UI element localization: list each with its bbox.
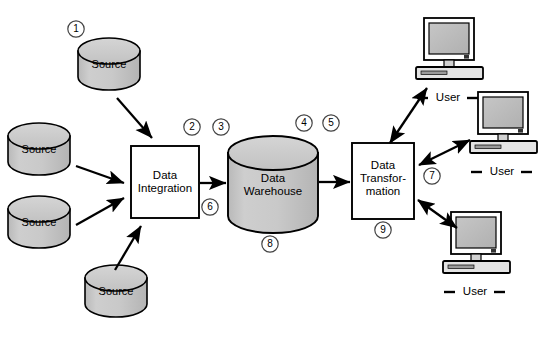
architecture-diagram	[0, 0, 551, 354]
diagram-canvas: Source Source Source Source Data Integra…	[0, 0, 551, 354]
flow-source2-to-integration	[76, 166, 124, 183]
flow-transformation-user1	[390, 88, 427, 143]
data-integration-box	[131, 146, 199, 218]
marker-circle-1	[68, 21, 84, 37]
user-computer-2	[470, 92, 537, 153]
user-computer-3	[443, 212, 510, 273]
flow-transformation-user2	[419, 140, 470, 165]
marker-circle-7	[424, 168, 440, 184]
marker-circle-3	[213, 119, 229, 135]
flow-source1-to-integration	[117, 98, 152, 138]
data-warehouse-cylinder	[228, 136, 318, 233]
marker-circle-6	[202, 199, 218, 215]
data-transformation-box	[352, 143, 414, 219]
user-computer-1	[416, 18, 483, 79]
marker-circle-2	[184, 119, 200, 135]
flow-source3-to-integration	[76, 198, 124, 225]
marker-circle-8	[262, 236, 278, 252]
source-cylinder-4	[85, 265, 147, 317]
flow-source4-to-integration	[115, 226, 141, 270]
source-cylinder-3	[8, 196, 70, 248]
source-cylinder-2	[8, 123, 70, 175]
marker-circle-9	[375, 222, 391, 238]
source-cylinder-1	[78, 38, 140, 90]
marker-circle-4	[296, 115, 312, 131]
marker-circle-5	[323, 115, 339, 131]
